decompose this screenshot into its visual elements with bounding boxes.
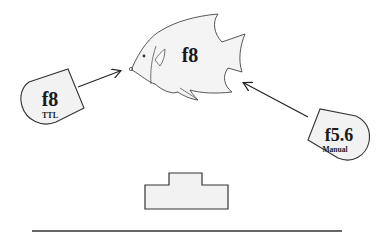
strobe-left-aperture: f8 [42,88,59,110]
fish-eye [143,55,146,58]
angelfish-subject: f8 [129,14,245,100]
camera-body [145,173,228,209]
subject-aperture-label: f8 [182,44,199,66]
lighting-diagram: f8 f8 TTL f5.6 Manual [0,0,388,235]
strobe-right-aperture: f5.6 [325,125,354,145]
strobe-left: f8 TTL [21,69,84,124]
arrow-right-to-subject [244,83,308,117]
strobe-right: f5.6 Manual [308,109,369,160]
arrow-left-to-subject [78,71,120,87]
strobe-left-mode: TTL [42,111,58,120]
strobe-right-mode: Manual [322,145,347,154]
